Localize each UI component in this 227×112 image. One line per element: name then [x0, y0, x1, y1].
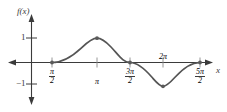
x-axis-label: x: [216, 66, 220, 75]
point-2pi-min: [161, 84, 165, 88]
fraction-3pi-over-2: 3π 2: [125, 68, 135, 86]
x-tick-text-pi: π: [95, 77, 99, 86]
fraction-5pi-over-2: 5π 2: [195, 68, 205, 86]
plot-canvas: [0, 0, 227, 112]
y-tick-label-1: 1: [21, 33, 26, 42]
fraction-denominator: 2: [195, 77, 205, 85]
y-axis-arrow-down: [29, 97, 35, 105]
x-axis-arrow-left: [8, 60, 16, 66]
point-pi-over-2: [50, 61, 54, 65]
x-tick-label-pi-over-2: π 2: [49, 68, 55, 87]
point-5pi-over-2: [198, 61, 202, 65]
fraction-denominator: 2: [125, 77, 135, 85]
fraction-pi-over-2: π 2: [49, 68, 55, 86]
x-tick-label-2pi: 2π: [159, 45, 167, 63]
x-tick-label-pi: π: [95, 70, 99, 88]
x-axis-arrow-right: [205, 60, 213, 66]
graph-figure: f(x) x 1 −1 π 2 π 3π 2 2π 5π 2: [0, 0, 227, 112]
x-tick-text-2pi: 2π: [159, 52, 167, 61]
x-tick-label-3pi-over-2: 3π 2: [125, 68, 135, 87]
fraction-denominator: 2: [49, 77, 55, 85]
y-axis: [29, 14, 35, 105]
point-3pi-over-2: [128, 61, 132, 65]
x-axis: [8, 60, 213, 66]
point-pi-max: [95, 36, 99, 40]
y-tick-label-neg-1: −1: [16, 79, 26, 88]
x-tick-label-5pi-over-2: 5π 2: [195, 68, 205, 87]
y-axis-label: f(x): [17, 7, 30, 16]
